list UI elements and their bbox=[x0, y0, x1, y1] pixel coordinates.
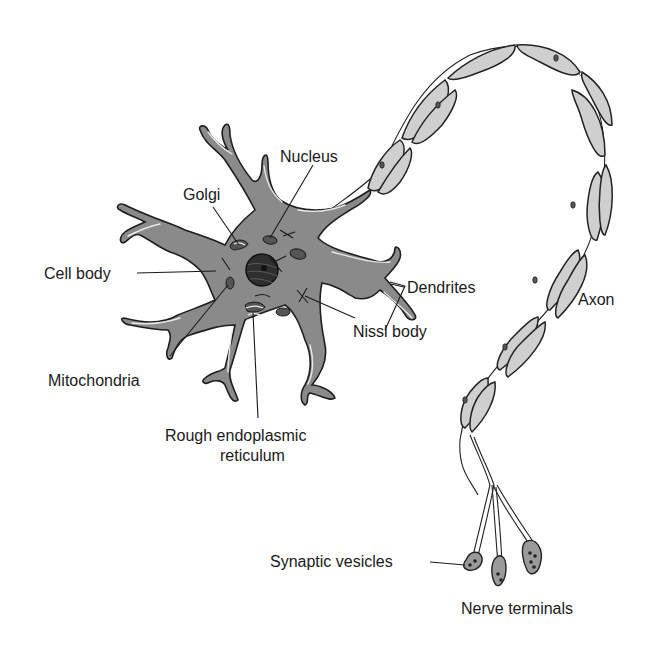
label-axon: Axon bbox=[578, 291, 614, 308]
nucleus bbox=[246, 254, 278, 286]
label-nerve-terminals: Nerve terminals bbox=[461, 600, 573, 617]
label-cell-body: Cell body bbox=[44, 265, 111, 282]
axon bbox=[330, 45, 612, 586]
cell-body bbox=[118, 124, 416, 405]
schwann-nuclei bbox=[380, 55, 575, 403]
label-mitochondria: Mitochondria bbox=[48, 372, 140, 389]
label-dendrites: Dendrites bbox=[407, 279, 475, 296]
label-nucleus: Nucleus bbox=[280, 148, 338, 165]
label-synaptic-vesicles: Synaptic vesicles bbox=[270, 553, 393, 570]
label-rough-er-line1: Rough endoplasmic bbox=[165, 427, 306, 444]
label-rough-er-line2: reticulum bbox=[220, 447, 285, 464]
label-golgi: Golgi bbox=[183, 186, 220, 203]
label-nissl-body: Nissl body bbox=[353, 323, 427, 340]
myelin-sheath bbox=[368, 45, 612, 432]
neuron-diagram: Nucleus Golgi Cell body Dendrites Axon N… bbox=[0, 0, 659, 654]
